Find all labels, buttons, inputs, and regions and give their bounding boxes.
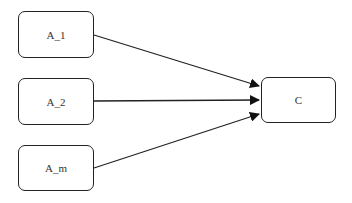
node-a1[interactable]: A_1 bbox=[18, 11, 94, 58]
edge-a1-to-c bbox=[94, 35, 259, 86]
node-a2-label: A_2 bbox=[47, 96, 66, 108]
node-c-label: C bbox=[295, 94, 302, 106]
node-am-label: A_m bbox=[45, 162, 67, 174]
node-a1-label: A_1 bbox=[47, 29, 66, 41]
edge-am-to-c bbox=[94, 114, 259, 168]
node-a2[interactable]: A_2 bbox=[18, 78, 94, 125]
node-c[interactable]: C bbox=[261, 77, 336, 123]
node-am[interactable]: A_m bbox=[18, 145, 94, 191]
edge-a2-to-c bbox=[94, 100, 259, 101]
